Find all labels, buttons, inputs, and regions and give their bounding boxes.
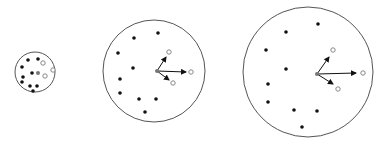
filled-point: [316, 22, 320, 26]
filled-point: [28, 84, 32, 88]
hollow-point: [336, 87, 340, 91]
panel-large: [243, 7, 373, 137]
filled-point: [116, 51, 120, 55]
boundary-circle: [243, 7, 373, 137]
center-point: [315, 72, 319, 76]
filled-point: [20, 80, 24, 84]
filled-point: [118, 91, 122, 95]
hollow-point: [189, 70, 193, 74]
hollow-point: [361, 71, 365, 75]
filled-point: [20, 65, 24, 69]
boundary-circle: [15, 52, 55, 92]
hollow-point: [43, 74, 47, 78]
filled-point: [315, 109, 319, 113]
hollow-point: [51, 68, 55, 72]
arrow: [317, 57, 329, 74]
hollow-point: [41, 61, 45, 65]
filled-point: [284, 30, 288, 34]
filled-point: [132, 36, 136, 40]
filled-point: [36, 57, 40, 61]
diagram-canvas: [0, 0, 392, 145]
filled-point: [137, 97, 141, 101]
arrow: [317, 73, 356, 74]
filled-point: [284, 67, 288, 71]
filled-point: [156, 31, 160, 35]
filled-point: [266, 100, 270, 104]
arrow: [157, 57, 166, 71]
filled-point: [300, 125, 304, 129]
filled-point: [35, 84, 39, 88]
arrow: [157, 71, 186, 72]
hollow-point: [171, 81, 175, 85]
filled-point: [131, 66, 135, 70]
filled-point: [30, 71, 34, 75]
center-point: [36, 71, 40, 75]
filled-point: [266, 82, 270, 86]
filled-point: [143, 110, 147, 114]
arrow: [317, 74, 333, 84]
hollow-point: [331, 48, 335, 52]
arrow: [157, 71, 169, 80]
filled-point: [118, 77, 122, 81]
filled-point: [21, 75, 25, 79]
diagram-panels: [15, 7, 373, 137]
filled-point: [292, 108, 296, 112]
hollow-point: [167, 50, 171, 54]
diagram-svg: [0, 0, 392, 145]
filled-point: [26, 58, 30, 62]
filled-point: [31, 89, 35, 93]
center-point: [155, 69, 159, 73]
panel-small: [15, 52, 55, 93]
filled-point: [264, 48, 268, 52]
filled-point: [154, 97, 158, 101]
panel-medium: [103, 20, 205, 122]
